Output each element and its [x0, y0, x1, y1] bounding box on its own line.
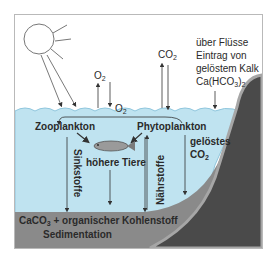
river-input-line3: gelöstem Kalk: [196, 63, 259, 74]
river-input-line4: Ca(HCO3)2: [196, 76, 246, 87]
nutrients-label: Nährstoffe: [155, 155, 166, 205]
sediment-line1: CaCO3 + organischer Kohlenstoff: [19, 215, 178, 226]
diagram-frame: O2 O2 CO2 über Flüsse Eintrag von gelöst…: [14, 14, 263, 249]
river-input-line2: Eintrag von: [196, 50, 247, 61]
river-input-line1: über Flüsse: [196, 37, 248, 48]
dissolved-co2-line1: gelöstes: [190, 136, 231, 147]
sinking-matter-label: Sinkstoffe: [72, 149, 83, 197]
sediment-line2: Sedimentation: [43, 229, 112, 240]
sun-icon: [24, 24, 71, 59]
o2-label-water: O2: [115, 103, 127, 114]
o2-label-top: O2: [94, 70, 106, 81]
zooplankton-label: Zooplankton: [35, 121, 95, 132]
higher-animals-label: höhere Tiere: [86, 157, 146, 168]
co2-label-top: CO2: [158, 49, 177, 60]
phytoplankton-label: Phytoplankton: [137, 121, 206, 132]
dissolved-co2-line2: CO2: [190, 149, 209, 160]
